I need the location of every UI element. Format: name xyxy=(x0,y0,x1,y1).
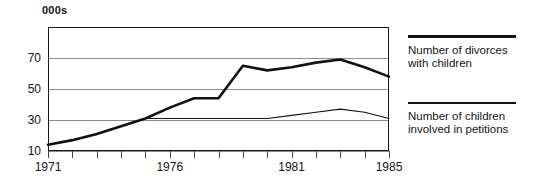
x-tick-1981 xyxy=(292,151,293,158)
chart-container: 000s 10305070 1971197619811985 Number of… xyxy=(0,0,533,188)
x-tick-label-1985: 1985 xyxy=(376,160,403,174)
x-tick-label-1976: 1976 xyxy=(156,160,183,174)
x-tick-label-1981: 1981 xyxy=(278,160,305,174)
plot-area xyxy=(48,27,389,151)
legend-entry-divorces: Number of divorces with children xyxy=(408,35,530,71)
legend-swatch-children xyxy=(408,102,516,104)
y-axis-labels: 10305070 xyxy=(0,27,41,151)
x-tick-1974 xyxy=(121,151,122,158)
x-tick-1973 xyxy=(97,151,98,158)
x-axis-ticks xyxy=(48,151,389,158)
y-tick-label-30: 30 xyxy=(28,113,41,127)
x-tick-1984 xyxy=(365,151,366,158)
legend-label-children: Number of children involved in petitions xyxy=(408,110,530,137)
chart-legend: Number of divorces with children Number … xyxy=(408,27,530,157)
series-line-0 xyxy=(48,60,389,145)
y-tick-label-50: 50 xyxy=(28,82,41,96)
x-tick-1976 xyxy=(170,151,171,158)
x-tick-1979 xyxy=(243,151,244,158)
x-tick-label-1971: 1971 xyxy=(35,160,62,174)
series-lines xyxy=(48,27,389,151)
x-tick-1980 xyxy=(267,151,268,158)
x-tick-1978 xyxy=(219,151,220,158)
series-line-1 xyxy=(48,109,389,145)
x-tick-1982 xyxy=(316,151,317,158)
legend-swatch-divorces xyxy=(408,35,516,38)
legend-label-divorces: Number of divorces with children xyxy=(408,44,530,71)
x-tick-1985 xyxy=(389,151,390,158)
x-tick-1971 xyxy=(48,151,49,158)
x-tick-1977 xyxy=(194,151,195,158)
chart-title: 000s xyxy=(42,4,67,16)
y-tick-label-10: 10 xyxy=(28,144,41,158)
x-tick-1975 xyxy=(145,151,146,158)
x-tick-1983 xyxy=(340,151,341,158)
x-axis-labels: 1971197619811985 xyxy=(0,160,440,178)
y-tick-label-70: 70 xyxy=(28,51,41,65)
legend-entry-children: Number of children involved in petitions xyxy=(408,102,530,137)
x-tick-1972 xyxy=(72,151,73,158)
